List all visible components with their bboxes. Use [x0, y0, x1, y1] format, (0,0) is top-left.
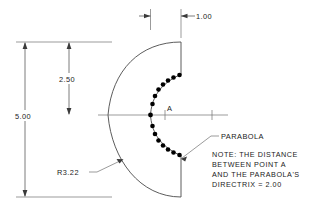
parabola-vertex-dot [148, 113, 153, 118]
parabola-dot-series-lower [150, 124, 182, 158]
parabola-dot [177, 73, 182, 78]
note-block: NOTE: THE DISTANCE BETWEEN POINT A AND T… [212, 150, 300, 189]
horizontal-centerline [98, 110, 228, 120]
note-line-4: DIRECTRIX = 2.00 [212, 180, 282, 189]
leader-line-r322 [97, 160, 122, 172]
parabola-dot [166, 78, 171, 83]
dimension-half-height: 2.50 [57, 42, 82, 115]
arrowhead-right [144, 14, 151, 19]
parabola-dot [156, 87, 161, 92]
arrowhead-up [23, 42, 28, 49]
parabola-dot [171, 150, 176, 155]
parabola-dot [153, 132, 158, 137]
note-line-1: NOTE: THE DISTANCE [212, 150, 298, 159]
technical-drawing-canvas: 5.00 2.50 1.00 R3.22 [0, 0, 327, 212]
leader-arrowhead [181, 157, 187, 162]
dimension-label-500: 5.00 [15, 112, 31, 121]
arrowhead-up [67, 42, 72, 49]
parabola-dot [166, 147, 171, 152]
parabola-dot-series-upper [150, 73, 182, 107]
drawing-svg: 5.00 2.50 1.00 R3.22 [0, 0, 327, 212]
note-line-2: BETWEEN POINT A [212, 160, 286, 169]
arrowhead-left [181, 14, 188, 19]
dimension-top-width: 1.00 [139, 9, 212, 38]
parabola-dot [161, 143, 166, 148]
radius-label-r322: R3.22 [57, 168, 79, 177]
arrowhead-down [67, 108, 72, 115]
parabola-dot [150, 102, 155, 107]
radius-leader-r322: R3.22 [57, 159, 124, 177]
note-line-3: AND THE PARABOLA'S [212, 170, 300, 179]
leader-line-parabola [182, 136, 211, 158]
part-outline [108, 42, 181, 197]
point-a-label: A [167, 104, 172, 113]
outer-arc-r322 [108, 42, 181, 197]
parabola-dot [171, 75, 176, 80]
arrowhead-down [23, 190, 28, 197]
parabola-dot [153, 94, 158, 99]
parabola-dot [161, 82, 166, 87]
parabola-dot [156, 138, 161, 143]
dimension-label-100: 1.00 [196, 12, 212, 21]
parabola-dot [150, 124, 155, 129]
parabola-dot [177, 153, 182, 158]
dimension-label-250: 2.50 [59, 75, 75, 84]
parabola-label: PARABOLA [221, 132, 264, 141]
